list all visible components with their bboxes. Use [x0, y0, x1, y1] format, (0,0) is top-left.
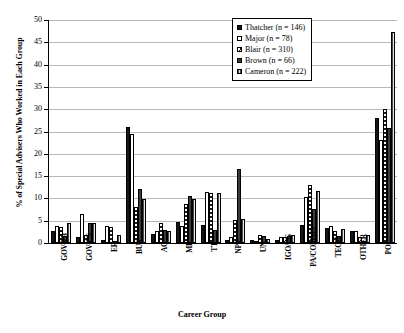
x-axis-tick-label: BUS	[135, 240, 144, 254]
bar	[142, 199, 146, 243]
x-axis-tick: UN	[247, 245, 272, 307]
legend-item: Thatcher (n = 146)	[237, 22, 306, 33]
x-axis-tick: GOV-PB	[48, 245, 73, 307]
y-axis-tick-label: 25	[34, 128, 42, 136]
legend-item: Major (n = 78)	[237, 33, 306, 44]
x-axis-tick-label: UN	[259, 242, 268, 252]
x-axis-tick: ME	[172, 245, 197, 307]
legend: Thatcher (n = 146)Major (n = 78)Blair (n…	[232, 18, 312, 81]
x-axis-tick-label: AC	[160, 242, 169, 252]
bar-group	[347, 20, 372, 243]
x-axis-tick-label: ER	[110, 242, 119, 252]
bar-groups	[49, 20, 397, 243]
x-axis-tick: BUS	[123, 245, 148, 307]
x-axis-tick: OTHER	[346, 245, 371, 307]
x-axis-tick-label: PA/COMMS	[309, 227, 318, 267]
bar-group	[372, 20, 397, 243]
bar-group	[173, 20, 198, 243]
y-axis-tick-label: 0	[38, 239, 42, 247]
y-axis-tick-label: 15	[34, 172, 42, 180]
legend-label: Brown (n = 66)	[245, 57, 295, 65]
plot-area: 05101520253035404550	[48, 20, 397, 244]
x-axis-tick-label: GOV-PB	[60, 233, 69, 260]
legend-item: Brown (n = 66)	[237, 55, 306, 66]
y-axis-tick-label: 30	[34, 105, 42, 113]
bar	[217, 193, 221, 243]
x-axis-tick: AC	[147, 245, 172, 307]
bar-group	[74, 20, 99, 243]
bar-chart: % of Special Advisers Who Worked in Each…	[0, 0, 404, 333]
y-axis-tick-label: 5	[38, 217, 42, 225]
legend-swatch	[237, 69, 242, 74]
x-axis-tick-label: IGO/FG	[284, 234, 293, 260]
x-axis-tick-label: ME	[185, 241, 194, 253]
y-axis-tick-label: 20	[34, 150, 42, 158]
x-axis-tick: NPS	[222, 245, 247, 307]
y-axis-tick-label: 45	[34, 38, 42, 46]
x-axis-tick: TECH	[321, 245, 346, 307]
y-axis-tick	[44, 243, 49, 244]
x-axis-tick-labels: GOV-PBGOV-CSERBUSACMETTNPSUNIGO/FGPA/COM…	[48, 245, 396, 307]
x-axis-tick: POL	[371, 245, 396, 307]
bar-group	[49, 20, 74, 243]
x-axis-title: Career Group	[0, 310, 404, 319]
x-axis-tick-label: GOV-CS	[85, 233, 94, 260]
bar-group	[124, 20, 149, 243]
legend-swatch	[237, 47, 242, 52]
legend-swatch	[237, 36, 242, 41]
x-axis-tick-label: TECH	[334, 237, 343, 257]
bar-group	[198, 20, 223, 243]
legend-label: Thatcher (n = 146)	[245, 24, 305, 32]
bar	[192, 199, 196, 243]
x-axis-tick-label: OTHER	[359, 234, 368, 260]
legend-item: Cameron (n = 222)	[237, 66, 306, 77]
y-axis-tick-label: 50	[34, 16, 42, 24]
bar-group	[148, 20, 173, 243]
x-axis-tick: PA/COMMS	[297, 245, 322, 307]
y-axis-title: % of Special Advisers Who Worked in Each…	[15, 8, 24, 238]
legend-label: Cameron (n = 222)	[245, 68, 306, 76]
legend-label: Major (n = 78)	[245, 35, 292, 43]
x-axis-tick: TT	[197, 245, 222, 307]
x-axis-tick-label: POL	[384, 240, 393, 255]
bar	[391, 32, 395, 243]
bar-group	[322, 20, 347, 243]
x-axis-tick: ER	[98, 245, 123, 307]
x-axis-tick: GOV-CS	[73, 245, 98, 307]
y-axis-tick-label: 40	[34, 61, 42, 69]
legend-item: Blair (n = 310)	[237, 44, 306, 55]
legend-swatch	[237, 58, 242, 63]
legend-swatch	[237, 25, 242, 30]
x-axis-tick: IGO/FG	[272, 245, 297, 307]
x-axis-tick-label: TT	[210, 242, 219, 252]
bar-group	[99, 20, 124, 243]
x-axis-tick-label: NPS	[234, 240, 243, 254]
legend-label: Blair (n = 310)	[245, 46, 293, 54]
y-axis-tick-label: 35	[34, 83, 42, 91]
y-axis-tick-label: 10	[34, 194, 42, 202]
